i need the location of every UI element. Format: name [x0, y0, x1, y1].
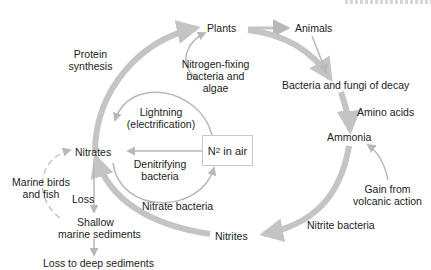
nfix-line-2: bacteria and	[178, 70, 253, 82]
label-nitrite-bacteria: Nitrite bacteria	[307, 219, 375, 231]
label-nitrate-bacteria: Nitrate bacteria	[142, 200, 213, 212]
label-protein-synthesis: Protein synthesis	[68, 48, 113, 72]
protein-line-1: Protein	[68, 48, 113, 60]
arrow-decay-ammonia	[341, 92, 350, 130]
node-n2-in-air: N2 in air	[202, 135, 253, 166]
node-decay: Bacteria and fungi of decay	[282, 79, 409, 91]
label-loss: Loss	[72, 193, 94, 205]
label-denitrifying: Denitrifying bacteria	[130, 158, 190, 182]
marine-line-1: Marine birds	[10, 176, 72, 188]
node-ammonia: Ammonia	[327, 131, 371, 143]
marine-line-2: and fish	[10, 188, 72, 200]
volcanic-line-1: Gain from	[350, 183, 425, 195]
node-deep-sediments: Loss to deep sediments	[43, 257, 154, 269]
label-volcanic: Gain from volcanic action	[350, 183, 425, 207]
node-nitrates: Nitrates	[75, 146, 111, 158]
label-amino-acids: Amino acids	[357, 106, 414, 118]
nfix-line-1: Nitrogen-fixing	[178, 58, 253, 70]
denit-line-2: bacteria	[130, 170, 190, 182]
node-animals: Animals	[295, 22, 332, 34]
nfix-line-3: algae	[178, 82, 253, 94]
volcanic-line-2: volcanic action	[350, 195, 425, 207]
n2-suffix: in air	[220, 145, 247, 157]
node-nitrites: Nitrites	[215, 230, 248, 242]
node-shallow-sediments: Shallow marine sediments	[58, 216, 133, 240]
node-plants: Plants	[207, 22, 236, 34]
label-lightning: Lightning (electrification)	[126, 106, 196, 130]
arrow-volcanic-ammonia	[368, 145, 388, 180]
denit-line-1: Denitrifying	[130, 158, 190, 170]
n2-symbol: N	[208, 145, 216, 157]
protein-line-2: synthesis	[68, 60, 113, 72]
arrow-plants-decay	[248, 30, 330, 78]
shallow-line-2: marine sediments	[58, 228, 133, 240]
label-nitrogen-fixing: Nitrogen-fixing bacteria and algae	[178, 58, 253, 94]
lightning-line-2: (electrification)	[126, 118, 196, 130]
label-marine-birds: Marine birds and fish	[10, 176, 72, 200]
shallow-line-1: Shallow	[58, 216, 133, 228]
lightning-line-1: Lightning	[126, 106, 196, 118]
